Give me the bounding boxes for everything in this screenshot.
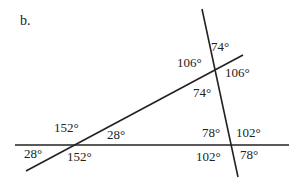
angle-upper-bottom-left: 74° [193,86,211,99]
angle-upper-top-left: 106° [177,56,202,69]
angle-upper-bottom-right: 106° [225,66,250,79]
angle-left-bottom-left: 28° [24,147,42,160]
angle-right-bottom-right: 78° [240,148,258,161]
angle-left-top-left: 152° [54,121,79,134]
angle-left-top-right: 28° [107,128,125,141]
angle-upper-top-right: 74° [211,40,229,53]
part-label: b. [20,14,31,28]
angle-right-top-left: 78° [202,126,220,139]
angle-right-top-right: 102° [236,126,261,139]
angle-left-bottom-right: 152° [67,150,92,163]
angle-right-bottom-left: 102° [196,150,221,163]
